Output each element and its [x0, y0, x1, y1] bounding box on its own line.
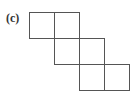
square [30, 13, 55, 39]
square [80, 39, 105, 65]
square [55, 39, 80, 65]
square-net-diagram [0, 0, 134, 96]
square [105, 65, 130, 91]
square [55, 13, 80, 39]
square [80, 65, 105, 91]
